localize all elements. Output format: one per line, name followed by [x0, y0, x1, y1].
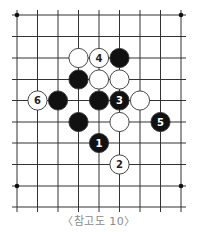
white-stone [130, 91, 149, 110]
black-stone [69, 70, 88, 89]
white-stone [110, 112, 129, 131]
white-stone [89, 70, 108, 89]
black-stone [48, 91, 67, 110]
star-point [179, 184, 184, 189]
move-number: 5 [157, 117, 164, 128]
white-stone-4: 4 [89, 48, 108, 67]
black-stone-3: 3 [110, 91, 129, 110]
move-number: 2 [116, 159, 123, 170]
star-point [15, 13, 20, 18]
black-stone [69, 112, 88, 131]
diagram-caption: 〈참고도 10〉 [0, 212, 198, 228]
black-stone-5: 5 [151, 112, 170, 131]
white-stone [69, 48, 88, 67]
move-number: 6 [34, 95, 41, 106]
white-stone-6: 6 [28, 91, 47, 110]
black-stone [110, 48, 129, 67]
star-point [179, 13, 184, 18]
move-number: 3 [116, 95, 123, 106]
white-stone [110, 70, 129, 89]
black-stone-1: 1 [89, 133, 108, 152]
move-number: 1 [96, 138, 103, 149]
star-point [15, 184, 20, 189]
move-number: 4 [96, 53, 103, 64]
go-board: 463512 [0, 0, 198, 212]
white-stone-2: 2 [110, 155, 129, 174]
black-stone [89, 91, 108, 110]
